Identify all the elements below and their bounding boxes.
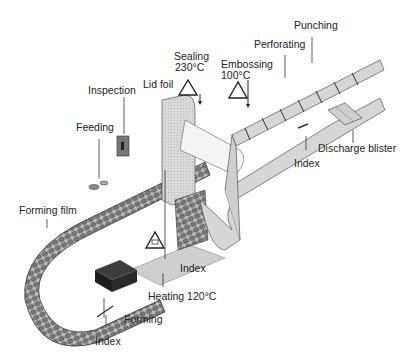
label-lid-foil: Lid foil (143, 78, 173, 90)
label-punching: Punching (294, 19, 338, 31)
label-index-bottom: Index (95, 335, 121, 347)
label-index-right: Index (294, 157, 320, 169)
label-sealing-temp: 230°C (175, 61, 204, 73)
label-forming: Forming (124, 313, 163, 325)
label-perforating: Perforating (254, 38, 305, 50)
label-embossing-temp: 100°C (221, 69, 250, 81)
label-discharge-blister: Discharge blister (318, 142, 396, 154)
heat-warning-icon (146, 232, 164, 248)
inspection-camera (117, 136, 129, 156)
label-feeding: Feeding (76, 121, 114, 133)
feeding-tablets (89, 181, 108, 190)
leader-lines (47, 37, 353, 328)
label-inspection: Inspection (88, 84, 136, 96)
label-heating: Heating 120°C (148, 290, 216, 302)
forming-block (95, 260, 137, 292)
label-index-middle: Index (180, 262, 206, 274)
film-pocket-drop (175, 190, 208, 250)
embossing-warning-icon (229, 80, 250, 108)
label-forming-film: Forming film (19, 204, 77, 216)
